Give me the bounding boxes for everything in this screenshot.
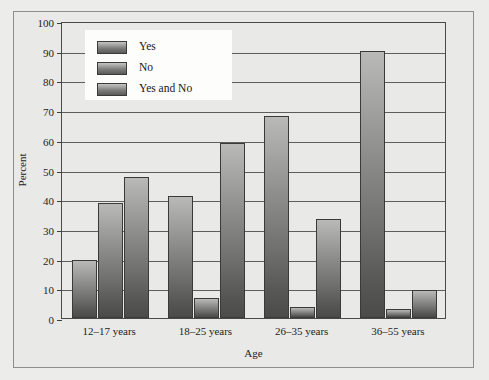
bar-yes-and-no-2 — [220, 143, 245, 318]
gridline — [62, 201, 445, 202]
y-tick-mark — [57, 261, 62, 262]
gridline — [62, 112, 445, 113]
bar-no-3 — [290, 307, 315, 318]
y-tick-mark — [57, 201, 62, 202]
y-tick-label: 100 — [38, 18, 55, 29]
bar-yes-2 — [168, 196, 193, 318]
y-tick-mark — [57, 82, 62, 83]
y-tick-label: 60 — [43, 136, 54, 147]
y-axis-label: Percent — [16, 154, 28, 187]
x-tick-label: 18–25 years — [179, 325, 232, 337]
legend-label: Yes and No — [139, 83, 192, 95]
x-tick-label: 12–17 years — [82, 325, 135, 337]
bar-yes-and-no-4 — [412, 290, 437, 318]
bar-yes-1 — [72, 260, 97, 318]
y-tick-label: 40 — [43, 196, 54, 207]
bar-yes-3 — [264, 116, 289, 318]
legend-swatch-icon — [97, 83, 127, 96]
chart-figure: Percent Age 0102030405060708090100 YesNo… — [0, 0, 489, 380]
y-tick-mark — [57, 23, 62, 24]
y-tick-mark — [57, 53, 62, 54]
legend-swatch-icon — [97, 62, 127, 75]
bar-no-2 — [194, 298, 219, 318]
y-tick-label: 0 — [49, 315, 55, 326]
x-axis-label: Age — [61, 347, 446, 359]
y-tick-mark — [57, 112, 62, 113]
y-tick-mark — [57, 320, 62, 321]
y-tick-mark — [57, 172, 62, 173]
plot-area: 0102030405060708090100 YesNoYes and No — [61, 22, 446, 319]
bar-no-1 — [98, 203, 123, 318]
x-tick-label: 36–55 years — [371, 325, 424, 337]
y-tick-mark — [57, 142, 62, 143]
y-tick-label: 30 — [43, 225, 54, 236]
bar-yes-and-no-3 — [316, 219, 341, 318]
chart-legend: YesNoYes and No — [85, 30, 232, 100]
y-tick-label: 70 — [43, 107, 54, 118]
legend-swatch-icon — [97, 41, 127, 54]
legend-label: No — [139, 62, 153, 74]
y-tick-label: 80 — [43, 77, 54, 88]
legend-label: Yes — [139, 41, 156, 53]
gridline — [62, 172, 445, 173]
y-tick-label: 90 — [43, 47, 54, 58]
y-tick-label: 50 — [43, 166, 54, 177]
legend-item-yes: Yes — [97, 39, 156, 55]
y-tick-label: 20 — [43, 255, 54, 266]
bar-no-4 — [386, 309, 411, 318]
x-tick-label: 26–35 years — [275, 325, 328, 337]
bar-yes-4 — [360, 51, 385, 318]
legend-item-yes-and-no: Yes and No — [97, 81, 192, 97]
y-tick-mark — [57, 231, 62, 232]
gridline — [62, 142, 445, 143]
y-tick-label: 10 — [43, 285, 54, 296]
legend-item-no: No — [97, 60, 153, 76]
bar-yes-and-no-1 — [124, 177, 149, 318]
y-tick-mark — [57, 290, 62, 291]
